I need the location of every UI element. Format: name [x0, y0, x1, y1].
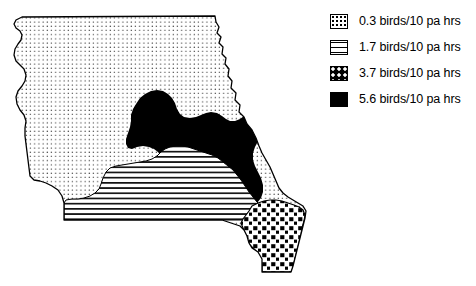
legend-label-2: 3.7 birds/10 pa hrs: [359, 66, 461, 80]
legend-item-3: 5.6 birds/10 pa hrs: [326, 86, 476, 112]
legend-swatch-coarse-dots-icon: [330, 66, 348, 81]
legend-item-2: 3.7 birds/10 pa hrs: [326, 60, 476, 86]
legend-item-0: 0.3 birds/10 pa hrs: [326, 8, 476, 34]
legend-label-0: 0.3 birds/10 pa hrs: [359, 14, 461, 28]
legend-swatch-fine-stipple-icon: [330, 14, 348, 29]
legend-swatch-solid-black-icon: [330, 92, 348, 107]
legend-label-3: 5.6 birds/10 pa hrs: [359, 92, 461, 106]
missouri-map-svg: [0, 0, 330, 286]
legend-item-1: 1.7 birds/10 pa hrs: [326, 34, 476, 60]
legend: 0.3 birds/10 pa hrs 1.7 birds/10 pa hrs …: [326, 8, 476, 128]
bird-density-map-figure: 0.3 birds/10 pa hrs 1.7 birds/10 pa hrs …: [0, 0, 476, 286]
map-regions: [0, 0, 330, 286]
legend-label-1: 1.7 birds/10 pa hrs: [359, 40, 461, 54]
legend-swatch-horizontal-lines-icon: [330, 40, 348, 55]
missouri-map: [0, 0, 330, 286]
